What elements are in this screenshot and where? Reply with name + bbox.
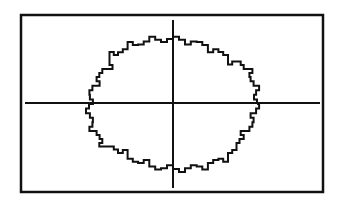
calculator-graph bbox=[0, 0, 341, 205]
